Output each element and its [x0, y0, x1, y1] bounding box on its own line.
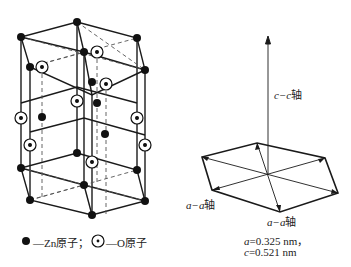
a-axis-bottom-label: a−a轴: [267, 213, 296, 229]
a-axis-left-label: a−a轴: [186, 196, 215, 212]
a-axis-left-suffix: 轴: [204, 199, 215, 211]
param-c: c=0.521 nm: [244, 246, 297, 258]
zn-legend-icon: [22, 237, 30, 245]
c-axis-var: c−c: [274, 89, 291, 101]
o-legend-label: —O原子: [106, 234, 147, 250]
a-axis-bottom-var: a−a: [267, 216, 285, 228]
lattice-axes-diagram: [202, 36, 338, 212]
c-axis-suffix: 轴: [291, 89, 302, 101]
a-axis-left-var: a−a: [186, 199, 204, 211]
axis-arrowheads: [202, 143, 338, 212]
a-axis-bottom-suffix: 轴: [285, 216, 296, 228]
zn-legend-label: —Zn原子；: [33, 234, 89, 250]
param-c-value: =0.521 nm: [249, 246, 297, 258]
zno-crystal-structure-diagram: [0, 0, 351, 267]
c-axis-label: c−c轴: [274, 86, 302, 102]
o-atoms: [15, 46, 151, 168]
